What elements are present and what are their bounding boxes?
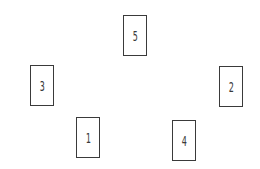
card-position-3: 3 xyxy=(30,65,54,106)
card-number: 2 xyxy=(228,80,233,94)
card-position-2: 2 xyxy=(219,66,243,107)
card-position-4: 4 xyxy=(172,120,196,161)
card-position-5: 5 xyxy=(123,15,147,56)
card-number: 3 xyxy=(39,79,44,93)
card-number: 1 xyxy=(85,131,90,145)
card-number: 4 xyxy=(181,134,186,148)
card-position-1: 1 xyxy=(76,117,100,158)
card-number: 5 xyxy=(132,29,137,43)
